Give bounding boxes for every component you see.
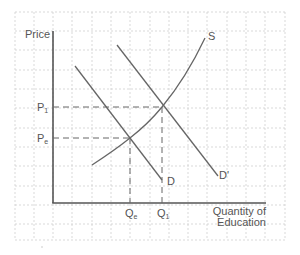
qe-label: Qe — [125, 207, 138, 220]
demand-curve-d — [75, 66, 162, 180]
curve-label-d-prime: D' — [219, 169, 229, 181]
curve-label-d: D — [167, 175, 175, 187]
x-axis-label-line2: Education — [217, 216, 266, 228]
stray-dot — [41, 246, 42, 247]
curve-label-s: S — [208, 30, 215, 42]
demand-curve-d-prime — [117, 45, 218, 176]
supply-demand-diagram: Price P1 Pe Qe Q1 Quantity of Education … — [0, 0, 300, 255]
p1-label: P1 — [37, 101, 48, 114]
q1-label: Q1 — [157, 207, 170, 220]
y-axis-label: Price — [25, 28, 50, 40]
pe-label: Pe — [37, 132, 48, 145]
